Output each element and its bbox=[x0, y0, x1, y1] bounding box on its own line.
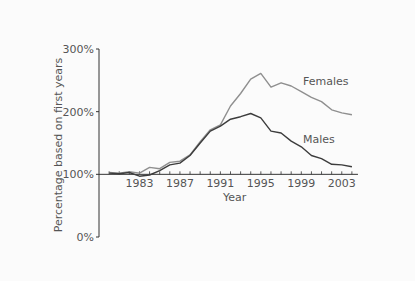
y-tick-label: 0% bbox=[77, 231, 94, 244]
x-tick-label: 2003 bbox=[328, 177, 356, 190]
series-label-females: Females bbox=[303, 75, 349, 88]
y-tick-label: 200% bbox=[63, 106, 94, 119]
series-layer: FemalesMales bbox=[109, 73, 352, 176]
x-axis-title: Year bbox=[222, 191, 247, 204]
x-tick-label: 1995 bbox=[247, 177, 275, 190]
y-axis: 0%100%200%300% bbox=[63, 43, 99, 244]
x-tick-label: 1987 bbox=[166, 177, 194, 190]
series-females: Females bbox=[109, 73, 352, 173]
line-chart: 0%100%200%300% 198319871991199519992003 … bbox=[0, 0, 415, 281]
series-males: Males bbox=[109, 113, 352, 176]
series-line-females bbox=[109, 73, 352, 173]
series-label-males: Males bbox=[303, 133, 335, 146]
x-axis: 198319871991199519992003 bbox=[99, 171, 358, 190]
y-axis-title: Percentage based on first years bbox=[52, 57, 65, 232]
x-tick-label: 1983 bbox=[125, 177, 153, 190]
y-tick-label: 300% bbox=[63, 43, 94, 56]
x-tick-label: 1991 bbox=[206, 177, 234, 190]
x-tick-label: 1999 bbox=[287, 177, 315, 190]
y-tick-label: 100% bbox=[63, 168, 94, 181]
